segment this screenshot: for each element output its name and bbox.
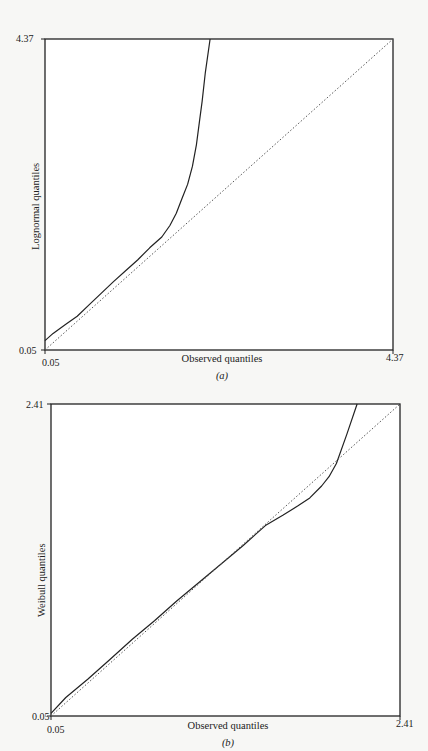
y-tick-min: 0.05	[32, 712, 50, 722]
chart-panel-b: 2.41 0.05 0.05 2.41 Observed quantiles (…	[0, 0, 428, 751]
y-axis-label: Weibull quantiles	[36, 543, 47, 617]
y-tick-max: 2.41	[26, 400, 44, 410]
x-tick-max: 2.41	[396, 719, 414, 729]
qq-plot-weibull	[0, 0, 428, 751]
x-axis-label: Observed quantiles	[188, 720, 269, 731]
chart-caption: (b)	[222, 737, 234, 748]
x-tick-min: 0.05	[47, 725, 65, 735]
